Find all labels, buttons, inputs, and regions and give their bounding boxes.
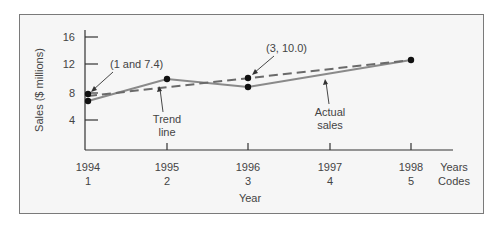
trend-label-arrow [160,89,163,112]
annotation-3-10: (3, 10.0) [266,42,307,54]
actual-point-3 [245,84,251,90]
chart-svg: 16 12 8 4 Sales ($ millions) 1994 1995 1… [0,0,500,225]
years-row-label: Years [440,161,468,173]
ytick-16: 16 [63,31,75,43]
annotation-1-7-4: (1 and 7.4) [110,58,163,70]
actual-point-5 [408,57,414,63]
xtick-1996: 1996 [236,161,260,173]
x-code-labels: 1 2 3 4 5 Codes [85,175,470,187]
actual-point-2 [164,76,170,82]
annotation-arrow-1 [93,72,113,90]
trend-point-1 [85,91,91,97]
actual-label-line2: sales [317,119,343,131]
trend-label-line1: Trend [153,113,181,125]
arrowhead-icon [323,79,328,85]
xtick-1998: 1998 [399,161,423,173]
x-year-labels: 1994 1995 1996 1997 1998 Years [76,161,469,173]
trend-point-3 [245,75,251,81]
code-3: 3 [245,175,251,187]
trend-label-line2: line [158,126,175,138]
y-axis-label: Sales ($ millions) [33,48,45,132]
codes-row-label: Codes [438,175,470,187]
code-5: 5 [408,175,414,187]
x-axis-label: Year [239,192,262,204]
ytick-8: 8 [69,87,75,99]
actual-label-line1: Actual [315,106,346,118]
code-2: 2 [164,175,170,187]
actual-label-arrow [326,82,329,104]
x-ticks [167,143,411,150]
xtick-1994: 1994 [76,161,100,173]
xtick-1995: 1995 [155,161,179,173]
actual-point-1 [85,98,91,104]
y-tick-labels: 16 12 8 4 [63,31,75,126]
xtick-1997: 1997 [318,161,342,173]
annotation-arrow-2 [254,56,274,73]
code-1: 1 [85,175,91,187]
code-4: 4 [327,175,333,187]
y-ticks [85,37,98,120]
ytick-12: 12 [63,58,75,70]
ytick-4: 4 [69,114,75,126]
